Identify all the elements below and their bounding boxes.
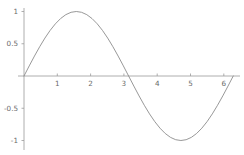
y-tick-label: 1 [13, 7, 18, 16]
x-tick-label: 1 [55, 79, 60, 88]
x-tick-label: 6 [222, 79, 227, 88]
plot-canvas: 123456 10.5-0.5-1 [0, 0, 244, 155]
y-tick-label: -1 [11, 136, 18, 145]
y-tick-label: -0.5 [4, 104, 18, 113]
x-tick-labels: 123456 [55, 79, 227, 88]
sine-plot-figure: 123456 10.5-0.5-1 [0, 0, 244, 155]
x-tick-label: 5 [188, 79, 193, 88]
y-tick-label: 0.5 [7, 39, 18, 48]
x-tick-label: 2 [88, 79, 93, 88]
x-tick-label: 4 [155, 79, 160, 88]
y-tick-labels: 10.5-0.5-1 [4, 7, 18, 145]
x-tick-label: 3 [122, 79, 127, 88]
